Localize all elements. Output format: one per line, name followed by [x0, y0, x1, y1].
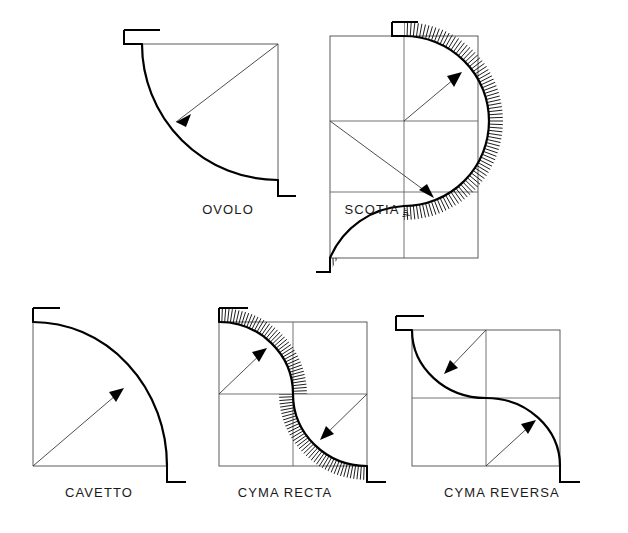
ovolo-label: OVOLO	[202, 202, 254, 217]
figure-scotia	[316, 21, 504, 273]
molding-profiles-drawing: OVOLO	[0, 0, 628, 533]
scotia-radius-line-lower	[330, 121, 432, 196]
ovolo-hatch-lines	[127, 44, 278, 195]
cyma-reversa-hatch-upper	[412, 315, 501, 398]
cyma-reversa-label: CYMA REVERSA	[444, 485, 560, 500]
scotia-bottom-fillet	[316, 258, 330, 272]
cavetto-label: CAVETTO	[65, 485, 133, 500]
scotia-radius-arrowhead-lower	[419, 184, 434, 198]
cyma-reversa-bottom-fillet	[560, 466, 580, 482]
cyma-recta-bottom-fillet	[367, 466, 386, 482]
ovolo-construction-box	[142, 44, 278, 180]
cavetto-profile-arc	[33, 322, 167, 466]
ovolo-bottom-fillet	[278, 180, 296, 196]
scotia-top-fillet	[392, 22, 404, 36]
figure-ovolo	[124, 30, 296, 196]
figure-cyma-reversa	[396, 315, 580, 482]
cavetto-bottom-fillet	[167, 466, 186, 482]
scotia-radius-arrowhead-upper	[447, 72, 462, 87]
figure-cavetto	[17, 308, 186, 482]
cavetto-radius-line	[33, 390, 122, 466]
ovolo-radius-line	[176, 44, 278, 122]
figure-cyma-recta	[219, 307, 386, 482]
ovolo-top-fillet	[124, 30, 142, 44]
scotia-label: SCOTIA	[345, 202, 400, 217]
cavetto-hatch-band	[17, 322, 167, 482]
cyma-recta-label: CYMA RECTA	[238, 485, 333, 500]
cyma-reversa-top-fillet	[396, 316, 412, 330]
ovolo-profile-arc	[142, 44, 278, 180]
cavetto-radius-arrowhead	[109, 388, 124, 402]
cavetto-construction-box	[33, 322, 167, 466]
ovolo-hatch-band	[127, 44, 278, 195]
